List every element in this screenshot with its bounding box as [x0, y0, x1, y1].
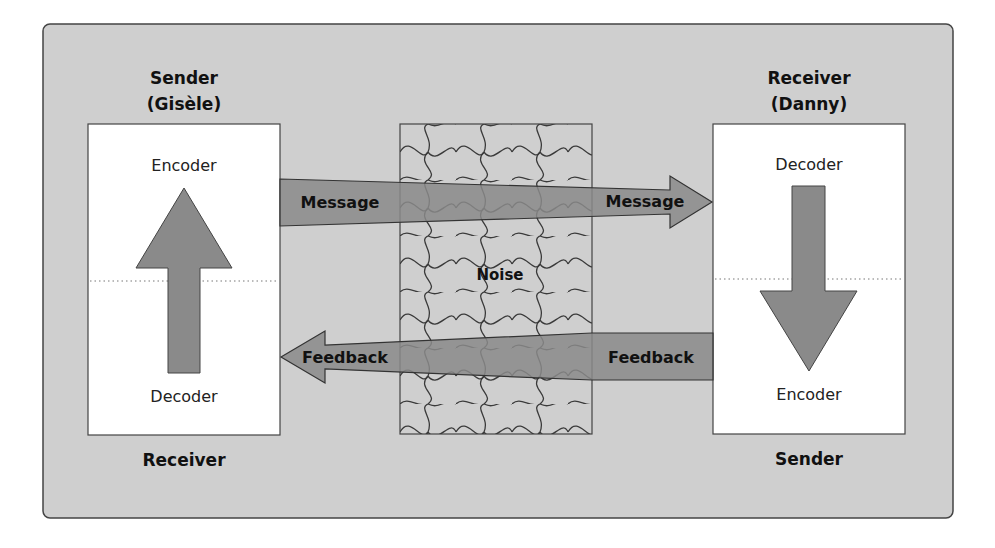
- message-label-left: Message: [301, 193, 380, 212]
- communication-diagram: Sender (Gisèle) Receiver (Danny) Encoder…: [0, 0, 995, 548]
- message-label-right: Message: [606, 192, 685, 211]
- right-bottom-label: Encoder: [776, 385, 842, 404]
- left-bottom-label: Decoder: [150, 387, 218, 406]
- left-title-line1: Sender: [150, 68, 219, 88]
- feedback-label-right: Feedback: [608, 348, 694, 367]
- noise-label: Noise: [476, 266, 523, 284]
- right-top-label: Decoder: [775, 155, 843, 174]
- feedback-label-left: Feedback: [302, 348, 388, 367]
- right-footer: Sender: [775, 449, 844, 469]
- right-title-line2: (Danny): [771, 94, 847, 114]
- right-title-line1: Receiver: [767, 68, 851, 88]
- left-title-line2: (Gisèle): [147, 94, 221, 114]
- left-footer: Receiver: [142, 450, 226, 470]
- left-top-label: Encoder: [151, 156, 217, 175]
